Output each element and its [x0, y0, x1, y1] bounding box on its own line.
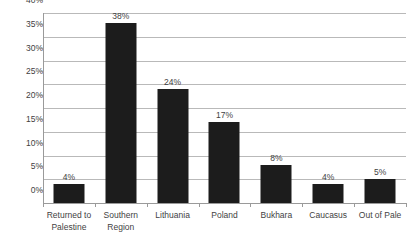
- bar-value-returned-to-palestine: 4%: [63, 172, 75, 182]
- bar-value-poland: 17%: [216, 110, 233, 120]
- y-axis: 40% 35% 30% 25% 20% 15% 10% 5% 0%: [0, 0, 43, 190]
- x-axis-line: [43, 203, 406, 204]
- bar-value-lithuania: 24%: [164, 77, 181, 87]
- category-label-poland: Poland: [199, 210, 251, 222]
- bar-poland[interactable]: [209, 122, 240, 203]
- bar-returned-to-palestine[interactable]: [53, 184, 84, 203]
- category-label-lithuania: Lithuania: [147, 210, 199, 222]
- bar-slot-lithuania: 24%: [147, 13, 199, 203]
- bar-slot-poland: 17%: [199, 13, 251, 203]
- x-tick-2: [147, 203, 148, 207]
- bar-value-caucasus: 4%: [322, 172, 334, 182]
- y-tick-label-15: 15%: [5, 114, 43, 123]
- bar-value-southern-region: 38%: [112, 11, 129, 21]
- y-tick-label-30: 30%: [5, 43, 43, 52]
- bar-caucasus[interactable]: [313, 184, 344, 203]
- bar-slot-southern-region: 38%: [95, 13, 147, 203]
- x-tick-4: [250, 203, 251, 207]
- bar-lithuania[interactable]: [157, 89, 188, 203]
- bar-slot-returned-to-palestine: 4%: [43, 13, 95, 203]
- y-tick-label-40: 40%: [5, 0, 43, 5]
- category-label-returned-to-palestine: Returned to Palestine: [43, 210, 95, 233]
- x-tick-5: [302, 203, 303, 207]
- bar-slot-caucasus: 4%: [302, 13, 354, 203]
- bar-slot-bukhara: 8%: [250, 13, 302, 203]
- bar-chart: 40% 35% 30% 25% 20% 15% 10% 5% 0% 4%: [0, 0, 414, 247]
- x-tick-7: [406, 203, 407, 207]
- bar-bukhara[interactable]: [261, 165, 292, 203]
- y-tick-label-35: 35%: [5, 19, 43, 28]
- category-label-bukhara: Bukhara: [250, 210, 302, 222]
- x-tick-1: [95, 203, 96, 207]
- bar-southern-region[interactable]: [105, 23, 136, 204]
- bar-value-bukhara: 8%: [270, 153, 282, 163]
- category-label-out-of-pale: Out of Pale: [354, 210, 406, 222]
- bar-value-out-of-pale: 5%: [374, 167, 386, 177]
- x-tick-3: [199, 203, 200, 207]
- bar-out-of-pale[interactable]: [365, 179, 396, 203]
- x-tick-6: [354, 203, 355, 207]
- bars-layer: 4% 38% 24% 17% 8% 4% 5%: [43, 13, 406, 203]
- y-tick-label-0: 0%: [5, 186, 43, 195]
- x-tick-0: [43, 203, 44, 207]
- y-tick-mark-40: [39, 0, 43, 1]
- category-label-caucasus: Caucasus: [302, 210, 354, 222]
- bar-slot-out-of-pale: 5%: [354, 13, 406, 203]
- category-label-southern-region: Southern Region: [95, 210, 147, 233]
- y-tick-label-25: 25%: [5, 67, 43, 76]
- y-tick-label-20: 20%: [5, 91, 43, 100]
- y-tick-label-10: 10%: [5, 138, 43, 147]
- y-tick-label-5: 5%: [5, 162, 43, 171]
